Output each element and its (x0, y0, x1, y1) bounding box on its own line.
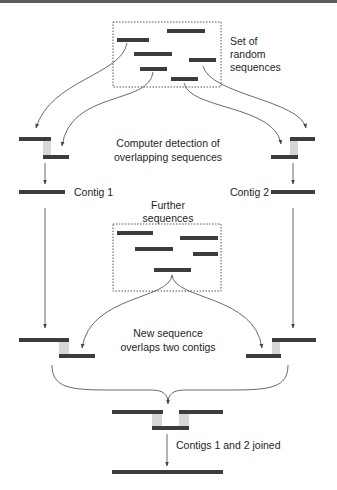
detection-label-1: Computer detection of (116, 137, 219, 149)
arrow-to-right-pair-bottom (184, 83, 281, 144)
overlap-lines (291, 141, 297, 155)
contig1-bar (19, 338, 69, 342)
sequence-bar (271, 155, 298, 159)
sequence-bar (167, 29, 205, 33)
brace-right (168, 365, 288, 400)
random-set-label-3: sequences (230, 61, 281, 73)
overlap-lines-left (153, 414, 161, 426)
sequence-bar (154, 268, 191, 272)
new-seq-label-2: overlaps two contigs (120, 341, 215, 353)
joined-label: Contigs 1 and 2 joined (176, 439, 281, 451)
brace-left (52, 365, 168, 400)
sequence-bar (117, 231, 153, 235)
sequence-bar (43, 155, 69, 159)
new-sequence-bar (152, 426, 189, 430)
sequence-bar (180, 236, 218, 240)
new-sequence-bar (59, 354, 95, 358)
right-overlap-pair (271, 137, 315, 159)
overlap-lines-right (180, 414, 188, 426)
left-overlap-pair (19, 137, 69, 159)
contig-assembly-diagram: Set of random sequences Computer detecti… (0, 0, 337, 490)
random-set-label-1: Set of (230, 35, 258, 47)
sequence-bar (19, 137, 51, 141)
further-sequences-box (113, 224, 221, 291)
overlap-lines (44, 141, 50, 155)
sequence-bar (189, 58, 216, 62)
new-sequence-bar (246, 354, 281, 358)
sequence-bar (134, 52, 172, 56)
sequence-bar (117, 38, 149, 42)
contig1-bar (112, 410, 163, 414)
contig1-label: Contig 1 (74, 186, 113, 198)
merged-overlap (112, 410, 223, 430)
detection-label-2: overlapping sequences (114, 151, 222, 163)
overlap-lines (60, 342, 68, 354)
contig2-bar (271, 190, 315, 194)
random-sequences-box (113, 22, 221, 87)
random-set-label-2: random (230, 48, 266, 60)
contig1-bar (19, 190, 65, 194)
new-seq-label-1: New sequence (133, 327, 203, 339)
further-label-2: sequences (143, 212, 194, 224)
sequence-bar (171, 77, 198, 81)
overlap-lines (273, 342, 279, 354)
further-label-1: Further (151, 199, 185, 211)
sequence-bar (135, 247, 173, 251)
contig2-label: Contig 2 (230, 186, 269, 198)
joined-contig-bar (112, 470, 223, 474)
sequence-bar (140, 67, 167, 71)
sequence-bar (193, 252, 218, 256)
arrow-to-left-pair-bottom (62, 72, 153, 146)
contig2-bar (179, 410, 223, 414)
sequence-bar (290, 137, 315, 141)
right-new-overlap (246, 338, 316, 358)
contig2-bar (272, 338, 316, 342)
arrow-to-right-pair-top (203, 66, 306, 128)
